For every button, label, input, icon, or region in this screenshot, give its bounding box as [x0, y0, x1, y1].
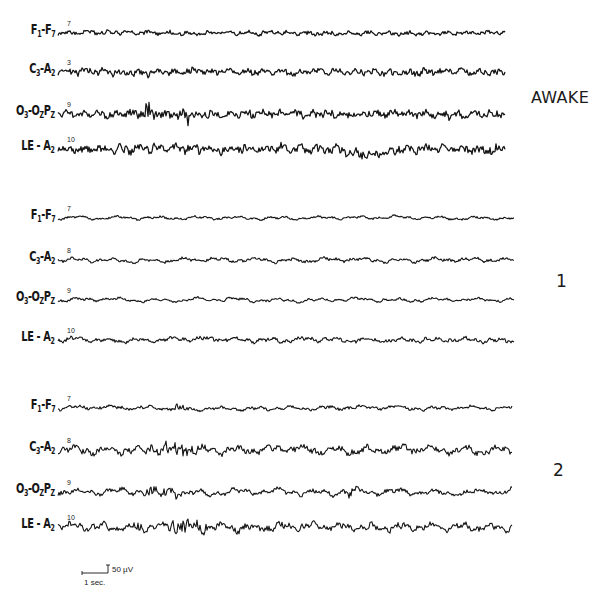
channel-label: F1-F7: [31, 21, 55, 39]
eeg-trace-f1-f7: [58, 215, 514, 221]
eeg-trace-o3-ozpz: [58, 297, 514, 304]
channel-number: 9: [67, 101, 71, 108]
channel-number: 8: [67, 437, 71, 444]
channel-number: 10: [67, 136, 75, 143]
channel-number: 9: [67, 287, 71, 294]
stage-label-1: 1: [556, 271, 567, 291]
channel-label: F1-F7: [31, 396, 55, 414]
channel-number: 3: [67, 59, 71, 66]
channel-number: 10: [67, 514, 75, 521]
eeg-trace-le-a2: [58, 142, 505, 159]
stage-label-awake: AWAKE: [531, 88, 589, 107]
stage-label-2: 2: [553, 460, 564, 480]
channel-label: O3-OZPZ: [16, 480, 55, 498]
eeg-trace-f1-f7: [58, 30, 505, 36]
channel-label: F1-F7: [31, 206, 55, 224]
channel-number: 9: [67, 479, 71, 486]
eeg-trace-f1-f7: [58, 404, 512, 412]
channel-number: 7: [67, 395, 71, 402]
eeg-trace-c3-a2: [58, 441, 512, 456]
scale-voltage-label: 50 µV: [112, 565, 133, 574]
scale-time-label: 1 sec.: [84, 578, 105, 587]
channel-label: C3-A2: [29, 60, 55, 78]
channel-number: 10: [67, 327, 75, 334]
eeg-trace-c3-a2: [58, 257, 514, 264]
channel-label: LE - A2: [22, 515, 55, 533]
channel-label: C3-A2: [29, 248, 55, 266]
channel-label: C3-A2: [29, 438, 55, 456]
eeg-traces: [58, 30, 514, 535]
eeg-trace-c3-a2: [58, 67, 505, 78]
channel-number: 7: [67, 20, 71, 27]
eeg-figure: [0, 0, 594, 593]
channel-number: 8: [67, 247, 71, 254]
channel-label: O3-OZPZ: [16, 288, 55, 306]
eeg-trace-le-a2: [58, 519, 512, 535]
channel-number: 7: [67, 205, 71, 212]
eeg-trace-o3-ozpz: [58, 102, 505, 125]
channel-label: LE - A2: [22, 137, 55, 155]
channel-label: LE - A2: [22, 328, 55, 346]
scale-bar: [82, 565, 110, 575]
eeg-trace-le-a2: [58, 336, 514, 344]
channel-label: O3-OZPZ: [16, 102, 55, 120]
eeg-trace-o3-ozpz: [58, 486, 512, 499]
